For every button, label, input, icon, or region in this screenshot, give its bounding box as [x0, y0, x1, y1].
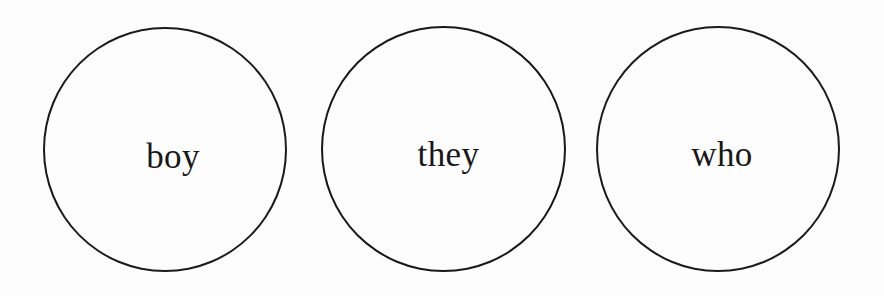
worksheet-canvas: boy they who: [0, 0, 884, 296]
word-circle-they[interactable]: they: [321, 26, 566, 272]
word-label-they: they: [323, 135, 564, 175]
word-circle-boy[interactable]: boy: [43, 27, 287, 272]
word-label-who: who: [598, 135, 838, 175]
word-circle-who[interactable]: who: [596, 26, 840, 272]
word-label-boy: boy: [45, 137, 285, 177]
